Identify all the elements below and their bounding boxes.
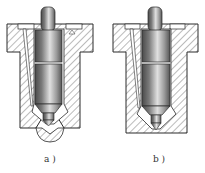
nozzle-diagram: [0, 0, 205, 173]
needle-lower-b: [142, 64, 170, 106]
needle-lower-a: [35, 64, 62, 104]
panel-label-a: a ): [44, 154, 56, 164]
needle-stem-a: [41, 7, 55, 31]
spray-bulb-a: [36, 128, 64, 142]
panel-label-b: b ): [153, 154, 165, 164]
nozzle-section-b: [113, 7, 198, 133]
needle-stem-b: [148, 7, 162, 31]
needle-upper-b: [142, 30, 170, 62]
needle-upper-a: [35, 30, 62, 62]
nozzle-section-a: [7, 7, 93, 142]
